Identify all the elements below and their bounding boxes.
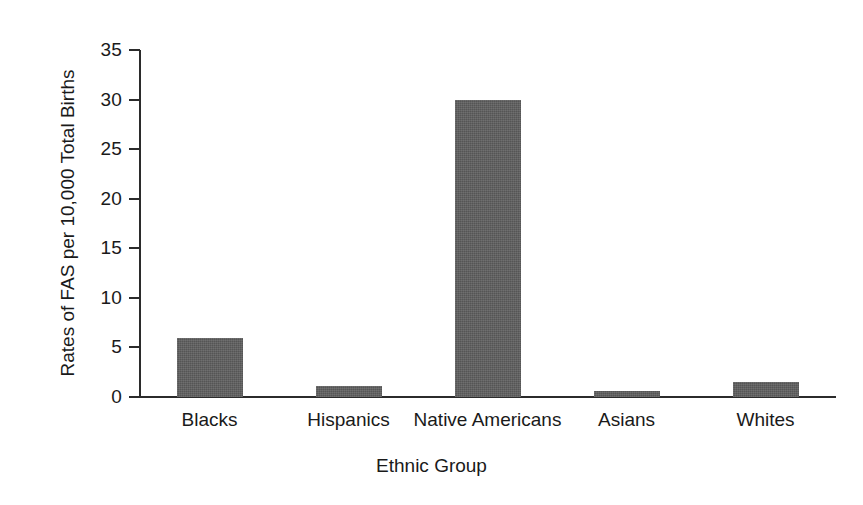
y-axis-tick-label: 25 [78,139,122,158]
y-axis-tick [129,49,140,51]
y-axis-tick-label: 20 [78,189,122,208]
y-axis-tick-label: 0 [78,387,122,406]
y-axis-tick-label-text: 0 [82,387,122,406]
y-axis-tick-label: 10 [78,288,122,307]
x-axis-category-label: Whites [666,409,863,431]
y-axis-tick-label: 15 [78,238,122,257]
bar [594,391,660,397]
y-axis-tick [129,396,140,398]
x-axis-title: Ethnic Group [0,455,863,477]
y-axis-tick-label-text: 5 [82,337,122,356]
y-axis-tick-label-text: 10 [82,288,122,307]
y-axis-tick-label: 35 [78,40,122,59]
y-axis-tick-label-text: 20 [82,189,122,208]
bar-chart: 05101520253035 BlacksHispanicsNative Ame… [0,0,863,505]
y-axis-tick-label-text: 35 [82,40,122,59]
y-axis-tick [129,346,140,348]
y-axis-tick [129,247,140,249]
y-axis-tick [129,198,140,200]
y-axis-tick-label-text: 15 [82,238,122,257]
bar [455,100,521,397]
bar [177,338,243,397]
y-axis-title: Rates of FAS per 10,000 Total Births [57,23,79,423]
y-axis-tick [129,99,140,101]
y-axis-tick [129,148,140,150]
plot-area [140,50,835,397]
y-axis-tick-label-text: 25 [82,139,122,158]
bar [316,386,382,397]
y-axis-tick-label: 30 [78,90,122,109]
y-axis-tick [129,297,140,299]
bar [733,382,799,397]
y-axis-tick-label-text: 30 [82,90,122,109]
y-axis-tick-label: 5 [78,337,122,356]
